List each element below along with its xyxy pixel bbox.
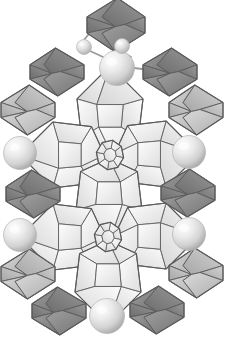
sphere-mid-left [4, 137, 37, 170]
light-right-upper-facet-6 [138, 141, 161, 167]
sphere-top-left-small [77, 40, 92, 55]
hub-lower-core [102, 230, 114, 243]
light-right-lower-facet-6 [138, 223, 161, 249]
structure-diagram [0, 0, 242, 356]
light-upper-center-facet-6 [97, 105, 123, 128]
hub-upper [96, 140, 123, 170]
sphere-mid-right [173, 136, 206, 169]
hub-upper-core [104, 148, 116, 161]
sphere-top-large-highlight [106, 58, 117, 66]
sphere-low-left-highlight [10, 225, 21, 233]
figure-root [0, 0, 242, 356]
sphere-bottom [90, 299, 125, 334]
light-bottom-center-facet-6 [95, 264, 121, 287]
sphere-mid-right-highlight [179, 142, 190, 150]
sphere-bottom-highlight [96, 306, 107, 314]
light-mid-center-facet-6 [96, 182, 122, 205]
sphere-top-right-small-highlight [117, 42, 122, 46]
sphere-top-right-small [115, 39, 130, 54]
sphere-top-large [100, 51, 135, 86]
light-left-lower-facet-6 [59, 224, 82, 250]
sphere-top-left-small-highlight [79, 43, 84, 47]
hub-lower [94, 222, 121, 252]
light-left-upper-facet-6 [59, 142, 82, 168]
sphere-low-right-highlight [179, 224, 190, 232]
sphere-low-right [173, 218, 206, 251]
sphere-mid-left-highlight [10, 143, 21, 151]
sphere-low-left [4, 219, 37, 252]
